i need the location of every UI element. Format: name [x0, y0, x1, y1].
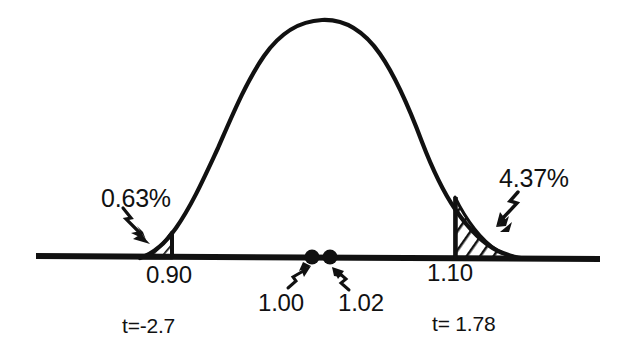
t-value-label-right: t= 1.78 [432, 313, 495, 334]
point-marker-1-02 [323, 250, 338, 265]
arrow-to-point-1-00 [288, 262, 311, 288]
distribution-figure: 0.63% 4.37% 0.90 1.10 1.00 1.02 t=-2.7 t… [0, 0, 625, 353]
right-tail-percent-label: 4.37% [499, 166, 569, 191]
t-value-label-left: t=-2.7 [122, 315, 175, 336]
point-marker-1-00 [305, 250, 320, 265]
axis-label-100: 1.00 [258, 291, 304, 315]
arrow-to-right-tail [496, 192, 518, 232]
axis-label-102: 1.02 [338, 291, 384, 315]
axis-label-090: 0.90 [146, 263, 192, 287]
arrow-to-point-1-02 [332, 267, 349, 290]
bell-curve [140, 20, 521, 258]
arrow-to-left-tail [123, 208, 150, 244]
axis-label-110: 1.10 [427, 261, 473, 285]
left-tail-percent-label: 0.63% [101, 186, 171, 211]
